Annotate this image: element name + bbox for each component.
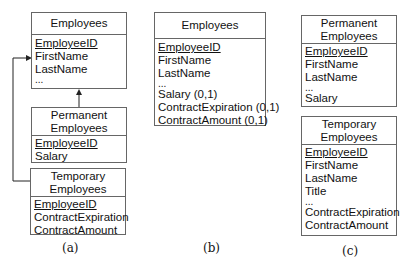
title-line: Employees [31,183,125,196]
attribute-ellipsis: ... [35,76,123,84]
attribute-key: EmployeeID [34,198,122,211]
entity-title: Temporary Employees [31,169,125,197]
entity-temporary-employees-c: Temporary Employees EmployeeID FirstName… [301,116,397,236]
attribute: ContractExpiration [34,211,122,224]
caption-b: (b) [203,241,220,255]
title-line: Temporary [31,170,125,183]
entity-temporary-employees-a: Temporary Employees EmployeeID ContractE… [30,168,126,235]
attribute-ellipsis: ... [305,198,393,206]
attribute-ellipsis: ... [305,84,393,92]
entity-title: Employees [32,13,126,35]
entity-employees-b: Employees EmployeeID FirstName LastName … [154,12,266,126]
title-line: Temporary [302,118,396,131]
entity-permanent-employees-a: Permanent Employees EmployeeID Salary [31,107,127,163]
attribute: ContractExpiration [305,206,393,219]
attribute-key: EmployeeID [305,146,393,159]
attribute: ContractAmount (0,1) [158,114,262,127]
entity-title: Temporary Employees [302,117,396,145]
attribute: FirstName [35,50,123,63]
attribute: LastName [305,172,393,185]
attribute: Title [305,185,393,198]
title-line: Permanent [302,17,396,30]
attribute-ellipsis: ... [158,80,262,88]
attribute: LastName [35,63,123,76]
attribute: FirstName [305,159,393,172]
attribute: ContractAmount [305,219,393,232]
title-line: Employees [302,131,396,144]
entity-employees-a: Employees EmployeeID FirstName LastName … [31,12,127,89]
attribute: Salary [305,92,393,105]
title-line: Employees [302,30,396,43]
attribute: FirstName [305,58,393,71]
attribute-key: EmployeeID [158,41,262,54]
entity-permanent-employees-c: Permanent Employees EmployeeID FirstName… [301,15,397,107]
attribute: LastName [158,67,262,80]
entity-title: Employees [155,13,265,39]
attribute: ContractExpiration (0,1) [158,101,262,114]
title-line: Employees [32,122,126,135]
entity-title: Permanent Employees [32,108,126,136]
attribute: LastName [305,71,393,84]
title-line: Permanent [32,109,126,122]
attribute: FirstName [158,54,262,67]
attribute-key: EmployeeID [35,137,123,150]
attribute: ContractAmount [34,224,122,237]
attribute-key: EmployeeID [35,37,123,50]
attribute: Salary [35,150,123,163]
attribute: Salary (0,1) [158,88,262,101]
caption-a: (a) [62,241,79,255]
attribute-key: EmployeeID [305,45,393,58]
caption-c: (c) [342,244,358,258]
entity-title: Permanent Employees [302,16,396,44]
